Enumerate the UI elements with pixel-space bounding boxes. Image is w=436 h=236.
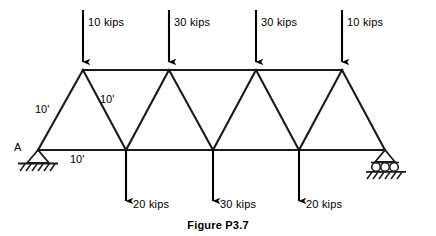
member-diagonal-3: [126, 70, 169, 150]
member-diagonal-4: [169, 70, 213, 150]
member-diagonal-2: [83, 70, 126, 150]
bottom-load-arrows: [126, 150, 299, 201]
dim-left-diagonal-label: 10': [35, 103, 49, 115]
joint-label-a: A: [14, 141, 21, 153]
roller-circle-3: [390, 163, 399, 172]
truss-diagram: [0, 0, 436, 236]
truss-figure: 10 kips 30 kips 30 kips 10 kips 20 kips …: [0, 0, 436, 236]
dim-bottom-chord-label: 10': [70, 153, 84, 165]
bottom-load-2-label: 30 kips: [220, 198, 256, 210]
member-diagonal-8: [342, 70, 385, 150]
figure-caption: Figure P3.7: [0, 219, 436, 231]
top-load-4-label: 10 kips: [347, 16, 383, 28]
truss-members: [38, 70, 385, 150]
roller-support-hatching: [367, 172, 402, 179]
dim-second-diagonal-label: 10': [100, 93, 114, 105]
member-diagonal-5: [213, 70, 256, 150]
roller-support-rollers: [372, 163, 399, 172]
top-load-2-label: 30 kips: [174, 16, 210, 28]
top-load-3-label: 30 kips: [261, 16, 297, 28]
bottom-load-1-label: 20 kips: [133, 198, 169, 210]
bottom-load-3-label: 20 kips: [306, 198, 342, 210]
roller-circle-2: [381, 163, 390, 172]
top-load-1-label: 10 kips: [88, 16, 124, 28]
roller-circle-1: [372, 163, 381, 172]
member-diagonal-6: [256, 70, 299, 150]
roller-support: [366, 150, 406, 179]
member-diagonal-7: [299, 70, 342, 150]
pin-support-hatching: [20, 164, 55, 171]
pin-support: [18, 150, 58, 171]
